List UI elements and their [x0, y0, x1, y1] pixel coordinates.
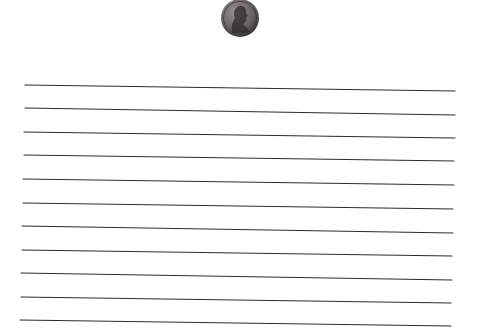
- ruled-line: [25, 85, 455, 91]
- ruled-line: [21, 297, 451, 303]
- lined-paper: [0, 0, 480, 333]
- ruled-line: [25, 108, 455, 115]
- ruled-line: [24, 132, 455, 138]
- ruled-line: [20, 320, 451, 326]
- ruled-lines: [20, 85, 455, 326]
- ruled-line: [22, 226, 453, 233]
- ruled-line: [23, 203, 453, 209]
- penny-icon: [221, 0, 259, 37]
- ruled-line: [21, 273, 452, 280]
- ruled-line: [24, 155, 454, 161]
- ruled-line: [22, 250, 452, 256]
- ruled-line: [23, 179, 454, 185]
